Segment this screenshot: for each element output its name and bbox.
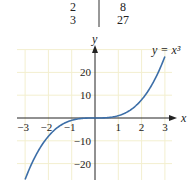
equation-label: y = x³	[151, 43, 181, 57]
y-tick-label: 10	[80, 89, 92, 101]
x-tick-label: 1	[116, 121, 122, 133]
x-tick-label: −3	[17, 121, 29, 133]
table-y-1: 8	[120, 0, 126, 14]
y-axis-label: y	[91, 32, 98, 46]
y-tick-label: −10	[74, 135, 92, 147]
y-axis-arrow-icon	[92, 45, 98, 53]
table-x-2: 3	[70, 13, 76, 27]
table-x-1: 2	[70, 0, 76, 14]
x-axis-label: x	[180, 111, 187, 125]
y-tick-label: −20	[74, 158, 92, 170]
x-axis-arrow-icon	[169, 115, 177, 121]
x-tick-label: −2	[41, 121, 53, 133]
chart: 2 8 3 27 x y −3−2−1123−20−101020 y = x³	[0, 0, 194, 190]
x-tick-label: 3	[162, 121, 168, 133]
y-tick-label: 20	[80, 66, 92, 78]
value-table: 2 8 3 27	[70, 0, 129, 27]
table-y-2: 27	[117, 13, 129, 27]
x-tick-label: 2	[139, 121, 145, 133]
